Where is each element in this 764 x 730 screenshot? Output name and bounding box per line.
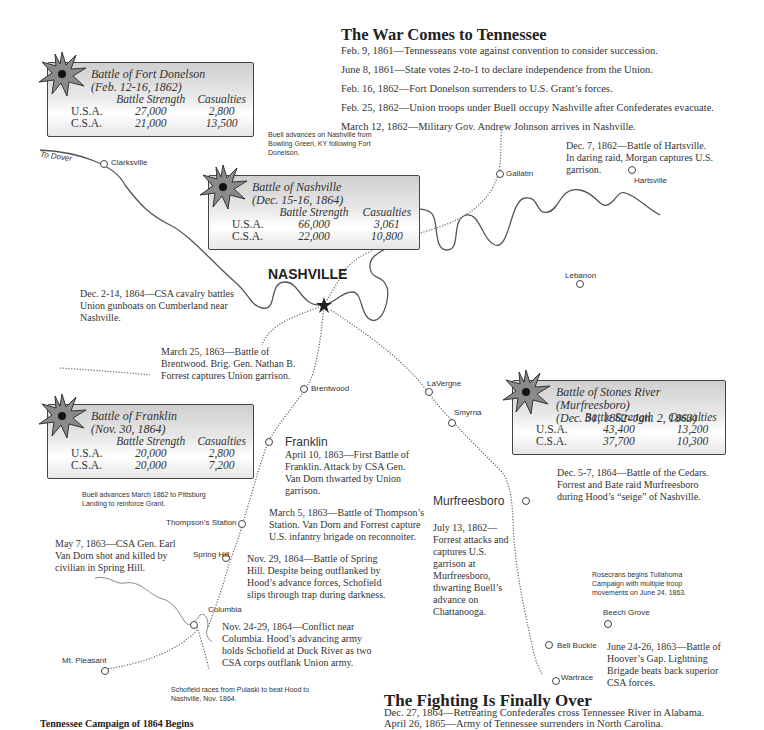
timeline-event: March 12, 1862—Military Gov. Andrew John… — [341, 117, 761, 136]
town-label-wartrace: Wartrace — [561, 673, 593, 682]
town-label-brentwood: Brentwood — [311, 384, 349, 393]
town-label-lavergne: LaVergne — [427, 379, 461, 388]
town-label-clarksville: Clarksville — [111, 158, 147, 167]
town-label-columbia: Columbia — [208, 605, 242, 614]
timeline-event: Feb. 9, 1861—Tennesseans vote against co… — [341, 41, 761, 60]
table-row: U.S.A.20,0002,800 — [71, 447, 251, 459]
route-columbia-south — [197, 627, 209, 670]
note-cedars: Dec. 5-7, 1864—Battle of the Cedars. For… — [557, 467, 727, 503]
star-icon — [316, 297, 332, 313]
town-label-thompsons-station: Thompson’s Station — [166, 518, 237, 527]
town-label-lebanon: Lebanon — [565, 271, 596, 280]
note-spring-hill: Nov. 29, 1864—Battle of Spring Hill. Des… — [247, 553, 397, 601]
town-label-bell-buckle: Bell Buckle — [557, 641, 597, 650]
table-row: U.S.A.66,0003,061 — [232, 218, 417, 230]
note-van-dorn: May 7, 1863—CSA Gen. Earl Van Dorn shot … — [55, 538, 185, 574]
explosion-star-icon — [197, 163, 249, 211]
note-hoovers-gap: June 24-26, 1863—Battle of Hoover’s Gap.… — [607, 641, 732, 689]
timeline-event: Feb. 25, 1862—Union troops under Buell o… — [341, 98, 761, 117]
route-west — [60, 368, 150, 375]
town-label-beech-grove: Beech Grove — [603, 608, 650, 617]
city-label-nashville: NASHVILLE — [268, 266, 347, 282]
note-cumberland: Dec. 2-14, 1864—CSA cavalry battles Unio… — [80, 288, 250, 324]
note-schofield: Schofield races from Pulaski to beat Hoo… — [171, 685, 321, 703]
town-label-murfreesboro: Murfreesboro — [433, 494, 504, 508]
town-label-franklin: Franklin — [285, 435, 328, 449]
town-label-mt-pleasant: Mt. Pleasant — [62, 656, 106, 665]
note-buell-nashville: Buell advances on Nashville from Bowling… — [268, 130, 378, 157]
town-label-smyrna: Smyrna — [454, 408, 482, 417]
note-tullahoma: Rosecrans begins Tullahoma Campaign with… — [592, 570, 707, 597]
timeline-event: Dec. 27, 1864—Retreating Confederates cr… — [384, 707, 764, 718]
note-hartsville: Dec. 7, 1862—Battle of Hartsville. In da… — [566, 140, 716, 176]
table-row: C.S.A.37,70010,300 — [536, 435, 723, 447]
battle-stats: Battle StrengthCasualties U.S.A.43,40013… — [536, 411, 723, 447]
note-murfreesboro-raid: July 13, 1862—Forrest attacks and captur… — [433, 522, 513, 618]
table-row: C.S.A.20,0007,200 — [71, 459, 251, 471]
note-buell-pittsburg: Buell advances March 1862 to Pittsburg L… — [82, 490, 232, 508]
explosion-star-icon — [36, 392, 88, 440]
battle-stats: Battle StrengthCasualties U.S.A.20,0002,… — [71, 435, 251, 471]
note-columbia: Nov. 24-29, 1864—Conflict near Columbia.… — [222, 621, 382, 669]
timeline-event: Feb. 16, 1862—Fort Donelson surrenders t… — [341, 79, 761, 98]
war-comes-timeline: Feb. 9, 1861—Tennesseans vote against co… — [341, 41, 761, 136]
fighting-over-timeline: Dec. 27, 1864—Retreating Confederates cr… — [384, 707, 764, 729]
battle-title: Battle of Stones River (Murfreesboro) — [556, 386, 725, 412]
timeline-event: June 8, 1861—State votes 2-to-1 to decla… — [341, 60, 761, 79]
timeline-event: April 26, 1865—Army of Tennessee surrend… — [384, 718, 764, 729]
table-row: C.S.A.22,00010,800 — [232, 230, 417, 242]
route-brentwood — [262, 305, 324, 345]
table-row: U.S.A.43,40013,200 — [536, 423, 723, 435]
battle-stats: Battle StrengthCasualties U.S.A.66,0003,… — [232, 206, 417, 242]
note-brentwood: March 25, 1863—Battle of Brentwood. Brig… — [161, 346, 316, 382]
table-row: U.S.A.27,0002,800 — [71, 105, 251, 117]
explosion-star-icon — [36, 50, 88, 98]
explosion-star-icon — [500, 368, 552, 416]
table-row: C.S.A.21,00013,500 — [71, 117, 251, 129]
town-label-gallatin: Gallatin — [506, 169, 533, 178]
heading-campaign-1864: Tennessee Campaign of 1864 Begins — [40, 718, 194, 729]
note-franklin-first: April 10, 1863—First Battle of Franklin.… — [285, 449, 410, 497]
battle-stats: Battle StrengthCasualties U.S.A.27,0002,… — [71, 93, 251, 129]
town-label-hartsville: Hartsville — [634, 176, 667, 185]
town-label-spring-hill: Spring Hill — [193, 550, 229, 559]
route-mt-pleasant — [105, 630, 197, 669]
note-thompsons: March 5, 1863—Battle of Thompson’s Stati… — [269, 507, 439, 543]
